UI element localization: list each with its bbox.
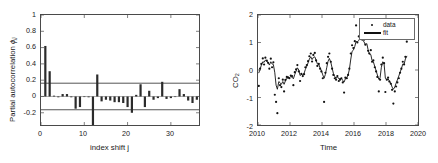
left-ytick-0: 0: [16, 92, 36, 99]
left-xtick-20: 20: [118, 130, 134, 137]
left-plot-area: [41, 15, 199, 125]
right-ytick-1: 1: [237, 39, 253, 46]
right-xtick-2018: 2018: [374, 130, 398, 137]
scatter-marker-icon: [363, 24, 381, 27]
left-ytick-0.4: 0.4: [16, 60, 36, 67]
right-axes-frame: data fit: [257, 14, 419, 126]
right-ytick--1: -1: [237, 95, 253, 102]
legend-row-fit: fit: [363, 29, 411, 37]
right-x-axis-label: Time: [219, 144, 438, 152]
panel-partial-autocorrelation: Partial autocorrelation ϕjj 1 0.8 0.6 0.…: [0, 0, 219, 163]
right-xtick-2010: 2010: [245, 130, 269, 137]
left-xtick-10: 10: [75, 130, 91, 137]
left-ytick-1: 1: [16, 11, 36, 18]
legend-label-fit: fit: [383, 30, 388, 36]
left-ytick-0.8: 0.8: [16, 27, 36, 34]
pacf-bars-svg: [41, 15, 199, 125]
line-sample-icon: [363, 32, 381, 33]
legend[interactable]: data fit: [359, 18, 415, 40]
figure-two-panel: Partial autocorrelation ϕjj 1 0.8 0.6 0.…: [0, 0, 438, 163]
legend-label-data: data: [383, 22, 395, 28]
legend-row-data: data: [363, 21, 411, 29]
left-xtick-0: 0: [32, 130, 48, 137]
right-y-axis-label-text: CO: [231, 76, 240, 88]
left-xtick-30: 30: [162, 130, 178, 137]
left-x-axis-label: index shift j: [0, 144, 219, 152]
right-xtick-2016: 2016: [341, 130, 365, 137]
right-xtick-2012: 2012: [277, 130, 301, 137]
left-ytick-0.6: 0.6: [16, 43, 36, 50]
left-ytick--0.2: -0.2: [16, 109, 36, 116]
panel-co2-timeseries: CO2 2 1 0 -1 -2 data fit 2010 2012: [219, 0, 438, 163]
phi-subscript: jj: [11, 37, 17, 39]
right-ytick-0: 0: [237, 67, 253, 74]
right-ytick-2: 2: [237, 11, 253, 18]
right-xtick-2014: 2014: [309, 130, 333, 137]
right-y-axis-label: CO2: [232, 73, 241, 88]
left-ytick-0.2: 0.2: [16, 76, 36, 83]
right-xtick-2020: 2020: [406, 130, 430, 137]
left-axes-frame: [40, 14, 200, 126]
